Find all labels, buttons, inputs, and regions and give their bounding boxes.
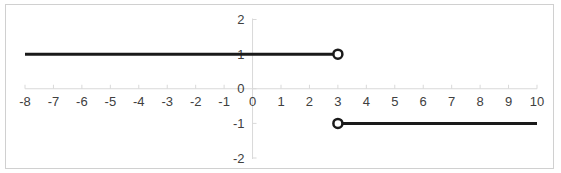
axes xyxy=(25,19,537,160)
x-tick-label: 7 xyxy=(448,94,455,109)
x-tick-label: -8 xyxy=(19,94,31,109)
y-tick-label: 0 xyxy=(237,81,244,96)
x-tick-label: 10 xyxy=(530,94,544,109)
x-tick-label: 9 xyxy=(505,94,512,109)
open-circle-marker xyxy=(333,50,342,59)
x-tick-label: 1 xyxy=(277,94,284,109)
x-tick-label: 4 xyxy=(363,94,370,109)
open-circle-marker xyxy=(333,119,342,128)
x-tick-label: -3 xyxy=(161,94,173,109)
x-tick-label: 8 xyxy=(476,94,483,109)
x-tick-label: -4 xyxy=(133,94,145,109)
x-tick-label: -5 xyxy=(105,94,117,109)
x-tick-label: -6 xyxy=(76,94,88,109)
y-tick-label: 2 xyxy=(237,12,244,27)
x-tick-label: 6 xyxy=(420,94,427,109)
x-tick-label: -7 xyxy=(48,94,60,109)
x-tick-label: -1 xyxy=(218,94,230,109)
x-tick-label: 0 xyxy=(249,94,256,109)
x-tick-label: 5 xyxy=(391,94,398,109)
piecewise-function-chart: -8-7-6-5-4-3-2-1012345678910-2-1012 xyxy=(0,0,561,173)
y-tick-label: -1 xyxy=(233,116,245,131)
x-tick-label: 3 xyxy=(334,94,341,109)
y-tick-label: -2 xyxy=(233,151,245,166)
x-tick-label: -2 xyxy=(190,94,202,109)
x-tick-label: 2 xyxy=(306,94,313,109)
